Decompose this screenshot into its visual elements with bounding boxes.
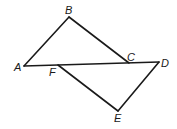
label-a: A xyxy=(13,61,21,73)
label-d: D xyxy=(161,57,169,69)
segment-ab xyxy=(24,17,69,66)
label-c: C xyxy=(127,51,135,63)
segment-bc xyxy=(69,17,129,63)
segment-ad xyxy=(24,62,159,66)
label-e: E xyxy=(114,112,122,124)
diagram-svg: A B C D E F xyxy=(0,0,177,129)
label-b: B xyxy=(65,4,72,16)
segment-fe xyxy=(58,65,118,111)
geometry-diagram: A B C D E F xyxy=(0,0,177,129)
label-f: F xyxy=(49,66,57,78)
segment-ed xyxy=(118,62,159,111)
